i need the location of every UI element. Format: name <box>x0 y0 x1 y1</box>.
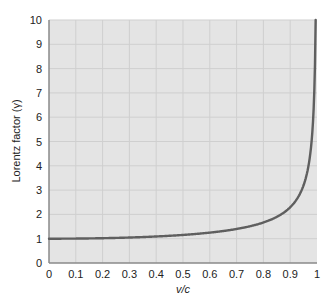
x-axis-tick-labels: 00.10.20.30.40.50.60.70.80.91 <box>46 268 320 280</box>
y-tick-label: 9 <box>36 38 42 50</box>
x-axis-title: v/c <box>176 283 191 295</box>
x-tick-label: 0.4 <box>149 268 164 280</box>
x-tick-label: 0 <box>46 268 52 280</box>
y-axis-title: Lorentz factor (γ) <box>10 99 22 182</box>
x-tick-label: 0.9 <box>283 268 298 280</box>
y-tick-label: 3 <box>36 184 42 196</box>
lorentz-factor-chart: 012345678910 00.10.20.30.40.50.60.70.80.… <box>0 0 335 302</box>
y-tick-label: 6 <box>36 111 42 123</box>
y-tick-label: 1 <box>36 233 42 245</box>
x-tick-label: 0.8 <box>256 268 271 280</box>
y-tick-label: 8 <box>36 63 42 75</box>
y-tick-label: 4 <box>36 160 42 172</box>
y-axis-tick-labels: 012345678910 <box>30 14 42 269</box>
x-tick-label: 1 <box>314 268 320 280</box>
x-tick-label: 0.3 <box>122 268 137 280</box>
x-tick-label: 0.2 <box>95 268 110 280</box>
y-tick-label: 2 <box>36 208 42 220</box>
x-tick-label: 0.7 <box>229 268 244 280</box>
x-tick-label: 0.5 <box>175 268 190 280</box>
x-tick-label: 0.1 <box>68 268 83 280</box>
y-tick-label: 5 <box>36 136 42 148</box>
y-tick-label: 0 <box>36 257 42 269</box>
y-tick-label: 10 <box>30 14 42 26</box>
x-tick-label: 0.6 <box>202 268 217 280</box>
y-tick-label: 7 <box>36 87 42 99</box>
